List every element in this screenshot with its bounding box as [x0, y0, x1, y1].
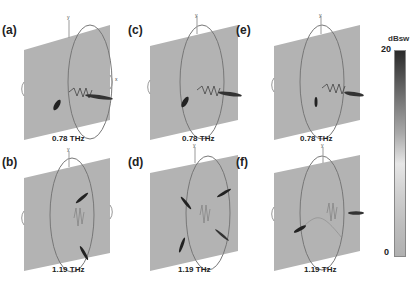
- radiation-pattern-plot: y: [232, 143, 362, 278]
- frequency-label: 0.78 THz: [300, 134, 332, 143]
- panel-c: (c) y 0.78 THz: [122, 10, 242, 145]
- svg-text:y: y: [67, 146, 70, 152]
- colorbar-min-label: 0: [384, 247, 389, 257]
- frequency-label: 1.19 THz: [304, 265, 336, 274]
- svg-text:x: x: [115, 76, 118, 82]
- frequency-label: 1.19 THz: [52, 265, 84, 274]
- svg-text:y: y: [195, 12, 198, 18]
- svg-text:y: y: [321, 142, 324, 148]
- y-axis-label: y: [67, 14, 70, 20]
- panel-b: (b) y 1.19 THz: [2, 143, 122, 278]
- panel-f: (f) y 1.19 THz: [232, 143, 352, 278]
- svg-text:y: y: [193, 142, 196, 148]
- frequency-label: 0.78 THz: [52, 134, 84, 143]
- radiation-pattern-plot: y x: [2, 10, 122, 145]
- colorbar: [394, 50, 406, 257]
- frequency-label: 1.19 THz: [178, 265, 210, 274]
- radiation-pattern-plot: y: [2, 143, 122, 278]
- radiation-pattern-plot: y: [232, 10, 362, 145]
- svg-text:y: y: [319, 12, 322, 18]
- colorbar-max-label: 20: [381, 44, 391, 54]
- panel-a: (a) y x 0.78 THz: [2, 10, 122, 145]
- panel-e: (e) y 0.78 THz: [232, 10, 352, 145]
- panel-d: (d) y 1.19 THz: [122, 143, 242, 278]
- radiation-pattern-plot: y: [122, 10, 242, 145]
- colorbar-title: dBsw: [388, 34, 409, 43]
- radiation-pattern-plot: y: [122, 143, 242, 278]
- frequency-label: 0.78 THz: [182, 134, 214, 143]
